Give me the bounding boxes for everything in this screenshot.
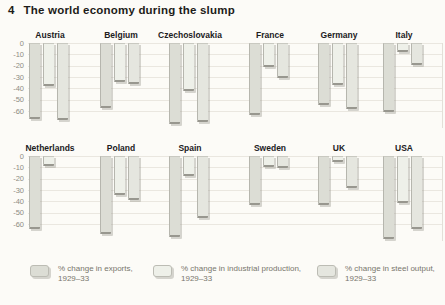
country-group-spain: Spain (169, 156, 211, 241)
legend: % change in exports, 1929–33 % change in… (0, 264, 445, 300)
country-group-sweden: Sweden (249, 156, 291, 241)
gridline--30 (28, 77, 442, 78)
bar-netherlands-exports (29, 156, 40, 229)
country-label-spain: Spain (178, 143, 201, 153)
gridline-0 (28, 43, 442, 44)
country-label-netherlands: Netherlands (25, 143, 74, 153)
country-label-france: France (256, 30, 284, 40)
y-axis-tick--20: -20 (0, 174, 24, 183)
bar-france-industrial_production (263, 43, 274, 67)
bar-czechoslovakia-exports (169, 43, 180, 124)
gridline--40 (28, 88, 442, 89)
country-label-belgium: Belgium (104, 30, 138, 40)
chart-row-2: NetherlandsPolandSpainSwedenUKUSA (28, 156, 442, 241)
country-group-austria: Austria (29, 43, 71, 128)
y-axis-tick--60: -60 (0, 220, 24, 229)
legend-label-industrial-production: % change in industrial production, 1929–… (181, 264, 301, 284)
y-axis-tick--30: -30 (0, 73, 24, 82)
bar-spain-industrial_production (183, 156, 194, 176)
bar-germany-industrial_production (332, 43, 343, 85)
y-axis-tick--30: -30 (0, 186, 24, 195)
bar-uk-industrial_production (332, 156, 343, 162)
exports-swatch-icon (30, 265, 49, 277)
country-group-italy: Italy (383, 43, 425, 128)
country-label-poland: Poland (107, 143, 135, 153)
bar-sweden-exports (249, 156, 260, 205)
gridline--60 (28, 224, 442, 225)
bar-usa-steel_output (411, 156, 422, 229)
country-group-czechoslovakia: Czechoslovakia (169, 43, 211, 128)
legend-label-exports: % change in exports, 1929–33 (58, 264, 133, 284)
bar-poland-steel_output (128, 156, 139, 200)
bar-austria-exports (29, 43, 40, 119)
y-axis-tick--10: -10 (0, 50, 24, 59)
bar-belgium-industrial_production (114, 43, 125, 82)
y-axis-tick--20: -20 (0, 61, 24, 70)
bar-france-steel_output (277, 43, 288, 78)
country-label-czechoslovakia: Czechoslovakia (158, 30, 222, 40)
country-label-germany: Germany (321, 30, 358, 40)
legend-label-steel-output: % change in steel output, 1929–33 (345, 264, 435, 284)
gridline--30 (28, 190, 442, 191)
bar-czechoslovakia-industrial_production (183, 43, 194, 91)
gridline--50 (28, 100, 442, 101)
bar-italy-steel_output (411, 43, 422, 65)
bar-poland-exports (100, 156, 111, 234)
bar-belgium-exports (100, 43, 111, 108)
country-group-usa: USA (383, 156, 425, 241)
y-axis-tick--40: -40 (0, 197, 24, 206)
y-axis-tick-0: 0 (0, 39, 24, 48)
country-group-netherlands: Netherlands (29, 156, 71, 241)
bar-austria-industrial_production (43, 43, 54, 86)
legend-item-industrial-production: % change in industrial production, 1929–… (153, 264, 301, 284)
steel-output-swatch-icon (317, 265, 336, 277)
bar-sweden-steel_output (277, 156, 288, 168)
bar-italy-exports (383, 43, 394, 112)
bar-uk-steel_output (346, 156, 357, 188)
y-axis-tick--10: -10 (0, 163, 24, 172)
legend-exports-line1: % change in exports, (58, 264, 133, 273)
plot-area (28, 156, 443, 241)
country-group-poland: Poland (100, 156, 142, 241)
y-axis-tick--60: -60 (0, 107, 24, 116)
bar-usa-industrial_production (397, 156, 408, 203)
bar-italy-industrial_production (397, 43, 408, 52)
plot-area (28, 43, 443, 128)
bar-austria-steel_output (57, 43, 68, 120)
country-label-austria: Austria (35, 30, 64, 40)
bar-netherlands-industrial_production (43, 156, 54, 166)
gridline--20 (28, 179, 442, 180)
figure: 4 The world economy during the slump 0-1… (0, 0, 445, 305)
legend-item-steel-output: % change in steel output, 1929–33 (317, 264, 435, 284)
bar-belgium-steel_output (128, 43, 139, 84)
bar-czechoslovakia-steel_output (197, 43, 208, 122)
country-group-belgium: Belgium (100, 43, 142, 128)
country-label-italy: Italy (395, 30, 412, 40)
bar-germany-steel_output (346, 43, 357, 109)
gridline--50 (28, 213, 442, 214)
bar-usa-exports (383, 156, 394, 239)
y-axis-tick--50: -50 (0, 95, 24, 104)
legend-industrial-line2: 1929–33 (181, 274, 212, 283)
gridline--20 (28, 66, 442, 67)
country-group-france: France (249, 43, 291, 128)
bar-sweden-industrial_production (263, 156, 274, 167)
y-axis-tick--40: -40 (0, 84, 24, 93)
legend-exports-line2: 1929–33 (58, 274, 89, 283)
country-label-sweden: Sweden (254, 143, 286, 153)
country-label-usa: USA (395, 143, 413, 153)
gridline--40 (28, 201, 442, 202)
gridline-0 (28, 156, 442, 157)
country-group-uk: UK (318, 156, 360, 241)
gridline--10 (28, 167, 442, 168)
y-axis-tick-0: 0 (0, 152, 24, 161)
country-group-germany: Germany (318, 43, 360, 128)
bar-spain-exports (169, 156, 180, 237)
bar-spain-steel_output (197, 156, 208, 218)
bar-poland-industrial_production (114, 156, 125, 195)
bar-germany-exports (318, 43, 329, 105)
bar-uk-exports (318, 156, 329, 205)
chart-row-1: AustriaBelgiumCzechoslovakiaFranceGerman… (28, 43, 442, 128)
legend-item-exports: % change in exports, 1929–33 (30, 264, 133, 284)
country-label-uk: UK (333, 143, 345, 153)
